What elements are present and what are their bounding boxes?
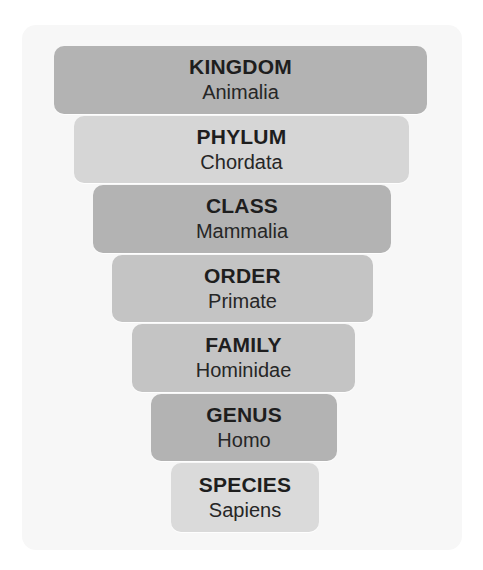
tier-kingdom: KINGDOM Animalia xyxy=(54,46,427,114)
tier-rank-label: ORDER xyxy=(204,263,281,288)
tier-rank-label: KINGDOM xyxy=(189,54,292,79)
tier-rank-label: SPECIES xyxy=(199,472,291,497)
tier-taxon-name: Primate xyxy=(208,288,277,315)
tier-taxon-name: Homo xyxy=(217,427,270,454)
tier-rank-label: FAMILY xyxy=(205,332,281,357)
tier-taxon-name: Hominidae xyxy=(196,357,292,384)
tier-family: FAMILY Hominidae xyxy=(132,324,355,392)
tier-rank-label: GENUS xyxy=(206,402,282,427)
tier-taxon-name: Mammalia xyxy=(196,218,288,245)
tier-genus: GENUS Homo xyxy=(151,394,337,461)
tier-rank-label: CLASS xyxy=(206,193,278,218)
tier-taxon-name: Animalia xyxy=(202,79,279,106)
tier-species: SPECIES Sapiens xyxy=(171,463,319,532)
tier-taxon-name: Sapiens xyxy=(209,497,281,524)
tier-order: ORDER Primate xyxy=(112,255,373,322)
tier-phylum: PHYLUM Chordata xyxy=(74,116,409,183)
tier-taxon-name: Chordata xyxy=(200,149,282,176)
tier-class: CLASS Mammalia xyxy=(93,185,391,253)
tier-rank-label: PHYLUM xyxy=(197,124,287,149)
